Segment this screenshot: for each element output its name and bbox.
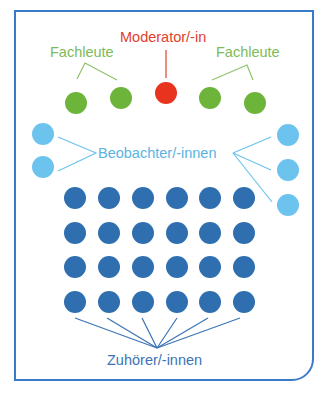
experts-left-label: Fachleute: [50, 45, 114, 60]
listener-dot: [64, 222, 86, 244]
listeners-label: Zuhörer/-innen: [107, 353, 202, 368]
listener-dot: [199, 222, 221, 244]
experts-right-label: Fachleute: [216, 45, 280, 60]
listener-dot: [64, 256, 86, 278]
observers-label: Beobachter/-innen: [98, 146, 217, 161]
listener-dot: [166, 291, 188, 313]
listener-dot: [132, 187, 154, 209]
listener-dot: [166, 256, 188, 278]
observer-dot: [277, 159, 299, 181]
listener-dot: [166, 187, 188, 209]
expert-dot: [244, 92, 266, 114]
observer-dot: [277, 124, 299, 146]
expert-dot: [199, 87, 221, 109]
listener-dot: [64, 187, 86, 209]
listener-dot: [199, 256, 221, 278]
listener-dot: [166, 222, 188, 244]
listener-dot: [98, 291, 120, 313]
listener-dot: [233, 256, 255, 278]
listener-dot: [199, 187, 221, 209]
observer-dot: [32, 123, 54, 145]
listener-dot: [233, 222, 255, 244]
moderator-label: Moderator/-in: [120, 30, 206, 45]
listener-dot: [132, 256, 154, 278]
listener-dot: [98, 256, 120, 278]
listener-dot: [64, 291, 86, 313]
listener-dot: [98, 187, 120, 209]
expert-dot: [65, 92, 87, 114]
observer-dot: [277, 194, 299, 216]
observer-dot: [32, 156, 54, 178]
listener-dot: [132, 291, 154, 313]
listener-dot: [199, 291, 221, 313]
listener-dot: [132, 222, 154, 244]
moderator-dot: [155, 82, 177, 104]
listener-dot: [233, 291, 255, 313]
listener-dot: [233, 187, 255, 209]
listener-dot: [98, 222, 120, 244]
expert-dot: [110, 87, 132, 109]
